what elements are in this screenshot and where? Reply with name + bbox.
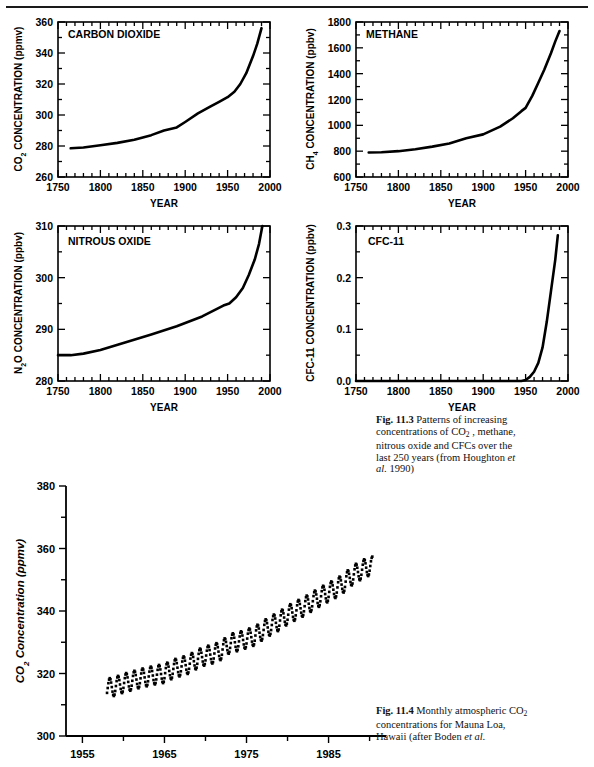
ml-data-point <box>142 668 145 671</box>
n2o-xaxis-title: YEAR <box>150 402 179 413</box>
caption-fig-11-4: Fig. 11.4 Monthly atmospheric CO2 concen… <box>376 705 528 743</box>
cfc11-xaxis-title: YEAR <box>448 402 477 413</box>
ml-data-point <box>222 643 225 646</box>
ml-data-point <box>118 679 121 682</box>
ml-data-point <box>172 668 175 671</box>
figure-page: 1750180018501900195020002602803003203403… <box>0 0 594 767</box>
ml-data-point <box>245 642 248 645</box>
ml-data-point <box>271 619 274 622</box>
ml-data-point <box>240 631 243 634</box>
ml-data-point <box>306 595 309 598</box>
ml-data-point <box>210 658 213 661</box>
ml-data-point <box>197 658 200 661</box>
y-tick-label: 1200 <box>328 94 352 106</box>
ml-y-tick-label: 360 <box>37 543 55 555</box>
ml-data-point <box>278 624 281 627</box>
ml-data-point <box>320 595 323 598</box>
ml-data-point <box>307 602 310 605</box>
ml-data-point <box>221 648 224 651</box>
ml-data-point <box>275 622 278 625</box>
ml-data-point <box>150 666 153 669</box>
ml-data-point <box>221 653 224 656</box>
ml-data-point <box>216 646 219 649</box>
ml-data-point <box>184 659 187 662</box>
ml-data-point <box>216 643 219 646</box>
ml-data-point <box>229 647 232 650</box>
ml-data-point <box>246 637 249 640</box>
y-tick-label: 280 <box>35 375 53 387</box>
x-tick-label: 1900 <box>174 385 198 397</box>
ml-data-point <box>368 569 371 572</box>
y-tick-label: 340 <box>35 47 53 59</box>
y-tick-label: 800 <box>333 145 351 157</box>
ml-data-point <box>262 629 265 632</box>
ml-data-point <box>290 607 293 610</box>
ml-data-point <box>188 668 191 671</box>
ml-data-point <box>364 562 367 565</box>
ml-data-point <box>175 659 178 662</box>
ml-data-point <box>107 682 110 685</box>
ml-data-point <box>196 663 199 666</box>
ml-data-point <box>140 672 143 675</box>
x-tick-label: 1800 <box>89 385 113 397</box>
ml-data-point <box>208 645 211 648</box>
ml-data-point <box>159 668 162 671</box>
ml-data-point <box>352 578 355 581</box>
ch4-panel-title: METHANE <box>366 28 418 40</box>
ml-data-point <box>167 662 170 665</box>
y-tick-label: 1800 <box>328 16 352 28</box>
ml-data-point <box>357 571 360 574</box>
x-tick-label: 1850 <box>131 385 155 397</box>
ml-data-point <box>304 600 307 603</box>
ml-data-point <box>130 688 133 691</box>
ml-data-point <box>290 604 293 607</box>
x-tick-label: 1850 <box>429 385 453 397</box>
n2o-panel-title: NITROUS OXIDE <box>68 235 151 247</box>
ml-data-point <box>361 568 364 571</box>
ml-data-point <box>212 661 215 664</box>
ml-data-point <box>183 656 186 659</box>
ml-data-point <box>139 677 142 680</box>
ml-data-point <box>261 638 264 641</box>
ml-data-point <box>300 611 303 614</box>
ml-data-point <box>281 609 284 612</box>
ml-data-point <box>303 610 306 613</box>
ml-data-point <box>228 651 231 654</box>
ml-data-point <box>154 682 157 685</box>
ml-data-point <box>371 555 374 558</box>
page-top-rule <box>6 6 588 8</box>
co2-plot-area: 1750180018501900195020002602803003203403… <box>35 16 281 193</box>
ml-data-point <box>355 563 358 566</box>
ml-data-point <box>158 665 161 668</box>
ml-data-point <box>123 682 126 685</box>
ml-data-point <box>131 679 134 682</box>
x-tick-label: 1800 <box>387 385 411 397</box>
ml-data-point <box>279 619 282 622</box>
y-tick-label: 0.2 <box>336 272 351 284</box>
ml-data-point <box>147 675 150 678</box>
ml-data-point <box>266 626 269 629</box>
methane-svg: 1750180018501900195020006008001000120014… <box>300 14 590 210</box>
y-tick-label: 280 <box>35 140 53 152</box>
ml-data-point <box>169 674 172 677</box>
ml-data-point <box>245 646 248 649</box>
ml-data-point <box>277 628 280 631</box>
ml-y-tick-label: 380 <box>37 480 55 492</box>
ml-y-tick-label: 320 <box>37 668 55 680</box>
mauna-loa-svg: 1955196519751985300320340360380 CO2 Conc… <box>8 468 394 767</box>
ml-data-point <box>294 618 297 621</box>
ml-data-point <box>138 686 141 689</box>
ml-data-point <box>180 665 183 668</box>
ml-data-point <box>253 639 256 642</box>
ml-data-point <box>132 675 135 678</box>
ml-data-point <box>274 617 277 620</box>
ml-data-point <box>230 637 233 640</box>
ml-data-point <box>204 659 207 662</box>
x-tick-label: 2000 <box>258 385 282 397</box>
ml-data-point <box>155 678 158 681</box>
ml-data-point <box>340 583 343 586</box>
caption-113-label: Fig. 11.3 <box>376 414 414 425</box>
x-tick-label: 2000 <box>556 385 580 397</box>
ml-data-point <box>270 629 273 632</box>
ml-data-point <box>327 599 330 602</box>
